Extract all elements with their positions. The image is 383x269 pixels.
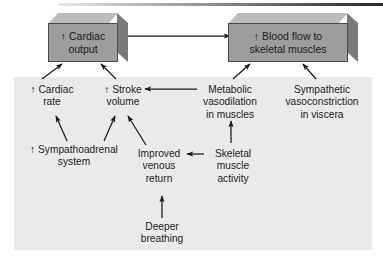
node-line-1: Stroke: [112, 84, 141, 95]
node-deeper-breathing: Deeper breathing: [132, 221, 192, 246]
node-line-3: return: [146, 173, 173, 184]
node-cardiac-rate: ↑ Cardiac rate: [18, 84, 86, 109]
box-cardiac-output-label: ↑ Cardiac output: [57, 30, 109, 55]
up-arrow-icon: ↑: [30, 84, 35, 95]
node-line-1: Cardiac: [38, 84, 73, 95]
box-line-2: skeletal muscles: [249, 43, 326, 55]
arrow-sympathoadrenal-to-stroke-volume: [104, 116, 115, 141]
node-line-1: Sympathoadrenal: [38, 144, 118, 155]
node-stroke-volume: ↑ Stroke volume: [92, 84, 154, 109]
node-line-3: in muscles: [206, 109, 254, 120]
arrow-venous-return-to-stroke-volume: [128, 116, 146, 145]
node-line-3: activity: [217, 173, 248, 184]
node-line-2: venous: [143, 160, 176, 171]
node-line-2: rate: [43, 96, 61, 107]
up-arrow-icon: ↑: [254, 30, 259, 42]
arrow-sympathetic-to-blood-flow: [303, 64, 316, 79]
node-line-2: system: [58, 156, 90, 167]
arrow-cardiac-rate-to-cardiac-output: [42, 64, 62, 79]
node-sympathetic-vasoconstriction: Sympathetic vasoconstriction in viscera: [272, 84, 372, 121]
arrow-sympathoadrenal-to-cardiac-rate: [56, 116, 67, 141]
box-line-1: Cardiac: [69, 30, 105, 42]
diagram-canvas: ↑ Cardiac output ↑ Blood flow to skeleta…: [0, 0, 383, 269]
node-sympathoadrenal-system: ↑ Sympathoadrenal system: [18, 144, 130, 169]
node-line-1: Sympathetic: [294, 84, 350, 95]
node-line-2: volume: [107, 96, 140, 107]
box-blood-flow: ↑ Blood flow to skeletal muscles: [228, 13, 348, 62]
up-arrow-icon: ↑: [30, 144, 35, 155]
node-line-1: Deeper: [145, 221, 178, 232]
node-line-3: in viscera: [300, 109, 343, 120]
node-metabolic-vasodilation: Metabolic vasodilation in muscles: [193, 84, 267, 121]
box-blood-flow-label: ↑ Blood flow to skeletal muscles: [245, 30, 330, 55]
box-cardiac-output: ↑ Cardiac output: [48, 13, 118, 62]
box-line-1: Blood flow to: [262, 30, 322, 42]
up-arrow-icon: ↑: [61, 30, 66, 42]
box-front-face: ↑ Blood flow to skeletal muscles: [228, 23, 348, 62]
box-line-2: output: [68, 43, 97, 55]
node-line-1: Improved: [138, 148, 180, 159]
node-line-2: breathing: [141, 233, 183, 244]
up-arrow-icon: ↑: [104, 84, 109, 95]
box-front-face: ↑ Cardiac output: [48, 23, 118, 62]
node-line-2: vasodilation: [203, 96, 257, 107]
node-line-1: Skeletal: [215, 148, 251, 159]
node-line-2: vasoconstriction: [285, 96, 358, 107]
arrow-stroke-volume-to-cardiac-output: [101, 64, 116, 79]
node-line-1: Metabolic: [208, 84, 252, 95]
node-skeletal-muscle-activity: Skeletal muscle activity: [206, 148, 260, 185]
arrow-metabolic-to-blood-flow: [233, 64, 250, 79]
node-improved-venous-return: Improved venous return: [130, 148, 188, 185]
node-line-2: muscle: [217, 160, 249, 171]
